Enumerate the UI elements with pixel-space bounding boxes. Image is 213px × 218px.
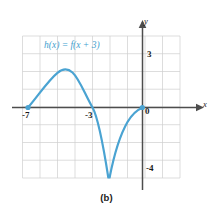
axis-arrowheads [139, 20, 204, 111]
figure-caption: (b) [0, 192, 213, 203]
figure-graph-hx-fx-plus-3: h(x) = f(x + 3) -7 -3 0 3 -4 x y (b) [0, 0, 213, 218]
function-curve-h [28, 70, 142, 178]
x-tick-label-minus-7: -7 [22, 110, 30, 120]
curve-equation-label: h(x) = f(x + 3) [44, 40, 100, 50]
y-tick-label-minus-4: -4 [146, 163, 154, 173]
coordinate-plane-svg [0, 0, 213, 218]
y-axis-label: y [144, 16, 148, 26]
y-tick-label-3: 3 [147, 49, 152, 59]
origin-label-zero: 0 [145, 106, 150, 116]
x-tick-label-minus-3: -3 [85, 110, 93, 120]
axis-lines [12, 22, 196, 190]
x-axis-label: x [203, 99, 207, 109]
